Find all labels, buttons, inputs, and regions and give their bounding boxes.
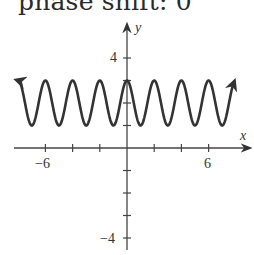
y-tick-label-neg4: −4 bbox=[100, 231, 115, 246]
y-axis-label: y bbox=[133, 20, 142, 35]
chart-plot: x y −6 6 4 −4 bbox=[0, 0, 254, 255]
x-tick-label-6: 6 bbox=[204, 156, 211, 171]
x-axis-label: x bbox=[239, 128, 247, 143]
y-tick-label-4: 4 bbox=[110, 50, 117, 65]
x-tick-label-neg6: −6 bbox=[35, 156, 50, 171]
